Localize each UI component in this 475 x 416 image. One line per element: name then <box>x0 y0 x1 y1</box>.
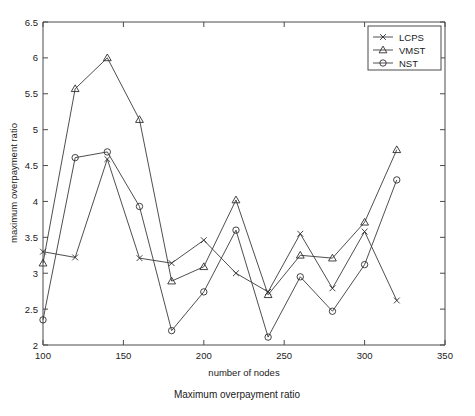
y-tick-label: 5 <box>33 124 38 135</box>
legend-label-lcps: LCPS <box>399 32 424 43</box>
chart-plot: 100150200250300350 22.533.544.555.566.5 … <box>0 0 475 416</box>
x-tick-label: 200 <box>196 350 212 361</box>
y-tick-label: 4 <box>33 196 38 207</box>
x-axis-title: number of nodes <box>208 367 280 378</box>
figure-caption: Maximum overpayment ratio <box>174 389 301 400</box>
y-tick-label: 2 <box>33 340 38 351</box>
figure-container: 100150200250300350 22.533.544.555.566.5 … <box>0 0 475 416</box>
y-tick-label: 4.5 <box>25 160 38 171</box>
y-tick-label: 3.5 <box>25 232 38 243</box>
legend-label-vmst: VMST <box>399 45 426 56</box>
y-tick-label: 6.5 <box>25 17 38 28</box>
y-tick-label: 2.5 <box>25 304 38 315</box>
x-tick-label: 250 <box>276 350 292 361</box>
y-tick-label: 3 <box>33 268 38 279</box>
y-tick-label: 6 <box>33 52 38 63</box>
x-tick-label: 150 <box>115 350 131 361</box>
x-tick-label: 350 <box>437 350 453 361</box>
legend-label-nst: NST <box>399 58 418 69</box>
x-tick-label: 100 <box>35 350 51 361</box>
y-tick-label: 5.5 <box>25 88 38 99</box>
y-axis-title: maximum overpayment ratio <box>8 123 19 243</box>
x-tick-label: 300 <box>357 350 373 361</box>
chart-legend: LCPSVMSTNST <box>368 26 441 70</box>
